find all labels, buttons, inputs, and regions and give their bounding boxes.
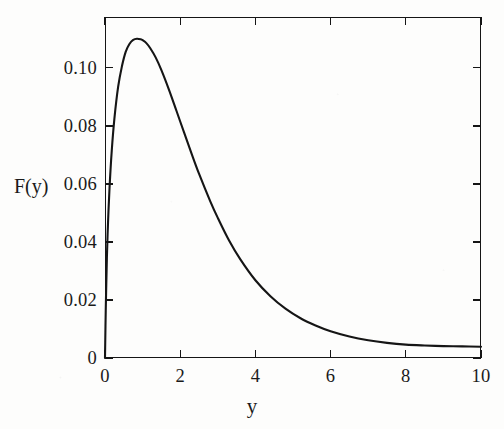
- plot-area: [105, 17, 481, 358]
- y-axis-tick-left-1: [105, 299, 113, 300]
- y-axis-tick-label: 0.06: [64, 173, 97, 194]
- x-axis-title: y: [0, 394, 504, 419]
- x-axis-tick-bottom-3: [330, 350, 331, 358]
- x-axis-tick-top-0: [104, 17, 105, 25]
- x-axis-tick-top-2: [255, 17, 256, 25]
- x-axis-tick-top-1: [180, 17, 181, 25]
- y-axis-tick-label: 0.10: [64, 57, 97, 78]
- y-axis-tick-label: 0.04: [64, 231, 97, 252]
- x-axis-tick-top-5: [480, 17, 481, 25]
- y-axis-tick-left-3: [105, 183, 113, 184]
- x-axis-tick-label: 10: [472, 366, 491, 387]
- x-axis-tick-top-4: [405, 17, 406, 25]
- x-axis-tick-bottom-2: [255, 350, 256, 358]
- y-axis-tick-left-5: [105, 67, 113, 68]
- x-axis-tick-bottom-4: [405, 350, 406, 358]
- x-axis-tick-bottom-1: [180, 350, 181, 358]
- y-axis-tick-right-3: [473, 183, 481, 184]
- figure-container: F(y) 0.100.080.060.040.020 0246810 y: [0, 0, 504, 429]
- y-axis-tick-right-2: [473, 241, 481, 242]
- y-axis-tick-right-4: [473, 125, 481, 126]
- y-axis-tick-label: 0.08: [64, 115, 97, 136]
- x-axis-tick-top-3: [330, 17, 331, 25]
- x-axis-tick-label: 0: [100, 366, 109, 387]
- y-axis-tick-left-0: [105, 357, 113, 358]
- x-axis-tick-label: 8: [401, 366, 410, 387]
- y-axis-tick-left-2: [105, 241, 113, 242]
- x-axis-tick-label: 6: [326, 366, 335, 387]
- y-axis-tick-left-4: [105, 125, 113, 126]
- y-axis-tick-label: 0.02: [64, 289, 97, 310]
- x-axis-tick-label: 4: [251, 366, 260, 387]
- y-axis-tick-right-0: [473, 357, 481, 358]
- x-axis-tick-label: 2: [175, 366, 184, 387]
- curve-svg: [105, 17, 481, 358]
- y-axis-tick-right-1: [473, 299, 481, 300]
- y-axis-tick-right-5: [473, 67, 481, 68]
- y-axis-tick-label-group: 0.100.080.060.040.020: [0, 17, 97, 358]
- x-axis-tick-label-group: 0246810: [105, 366, 481, 392]
- data-curve-F-of-y: [105, 39, 481, 358]
- y-axis-tick-label: 0: [88, 348, 97, 369]
